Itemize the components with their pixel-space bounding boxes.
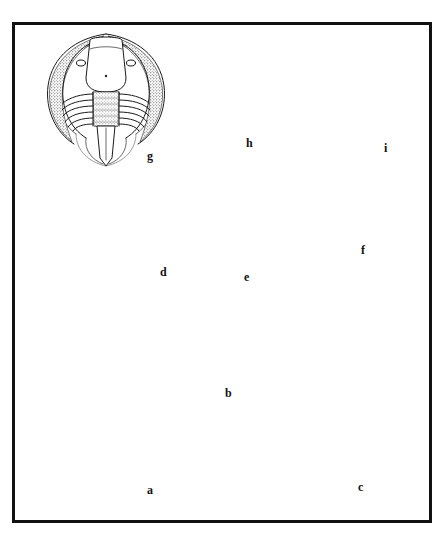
illustration-plate: g h i d e f a b c	[0, 0, 446, 543]
figure-label-i: i	[384, 142, 387, 154]
figure-label-b: b	[225, 387, 232, 399]
figure-label-e: e	[244, 271, 249, 283]
plate-drawing-canvas	[0, 0, 446, 543]
figure-label-c: c	[358, 481, 363, 493]
figure-label-h: h	[246, 137, 253, 149]
figure-label-d: d	[160, 266, 167, 278]
figure-label-g: g	[147, 150, 153, 162]
figure-label-a: a	[147, 484, 153, 496]
figure-label-f: f	[361, 244, 365, 256]
figure-g-trilobite	[48, 34, 165, 166]
